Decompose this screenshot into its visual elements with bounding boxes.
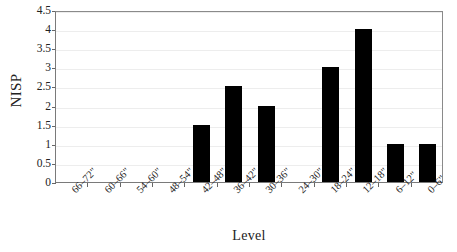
x-axis-tick-label: 6–12" [394,188,401,195]
x-axis-tick-label: 12–18" [361,188,368,195]
x-axis-tick-label: 36–42" [232,188,239,195]
bar[interactable] [419,144,436,182]
bar[interactable] [322,67,339,182]
bar-slot [56,12,88,182]
x-axis-tick-labels: 66–72"60–66"54–60"48–54"42–48"36–42"30–3… [55,188,443,228]
bar[interactable] [258,106,275,182]
x-axis-tick-label: 42–48" [200,188,207,195]
y-axis-tick-label: 1 [20,139,51,151]
x-axis-tick-label: 60–66" [103,188,110,195]
x-axis-tick-label: 18–24" [329,188,336,195]
bar-slot [153,12,185,182]
x-axis-title: Level [55,228,443,244]
y-axis-tick-labels: 00.511.522.533.544.5 [20,11,51,183]
x-axis-tick-label: 0–6" [426,188,433,195]
x-axis-tick-label: 24–30" [297,188,304,195]
y-axis-tick-label: 3 [20,63,51,75]
y-axis-tick-label: 0.5 [20,158,51,170]
bar[interactable] [387,144,404,182]
plot-area [55,11,443,183]
bar-slot [185,12,217,182]
bar-slot [379,12,411,182]
y-axis-tick-label: 1.5 [20,120,51,132]
bar-slot [412,12,444,182]
bar-slot [218,12,250,182]
bar-slot [315,12,347,182]
bar-slot [88,12,120,182]
bar[interactable] [355,29,372,182]
bar-slot [282,12,314,182]
x-axis-tick-label: 54–60" [135,188,142,195]
y-axis-tick-label: 4.5 [20,5,51,17]
bar-series [56,12,442,182]
y-axis-tick-label: 2 [20,101,51,113]
x-axis-tick-label: 48–54" [167,188,174,195]
bar-slot [250,12,282,182]
bar[interactable] [225,86,242,182]
y-axis-tick-label: 2.5 [20,82,51,94]
y-axis-tick-label: 4 [20,24,51,36]
bar-slot [347,12,379,182]
x-axis-tick-label: 30–36" [264,188,271,195]
y-axis-tick-label: 3.5 [20,43,51,55]
bar-slot [121,12,153,182]
y-axis-tick-label: 0 [20,177,51,189]
bar-chart-figure: NISP 00.511.522.533.544.5 66–72"60–66"54… [0,0,457,252]
x-axis-tick-label: 66–72" [70,188,77,195]
